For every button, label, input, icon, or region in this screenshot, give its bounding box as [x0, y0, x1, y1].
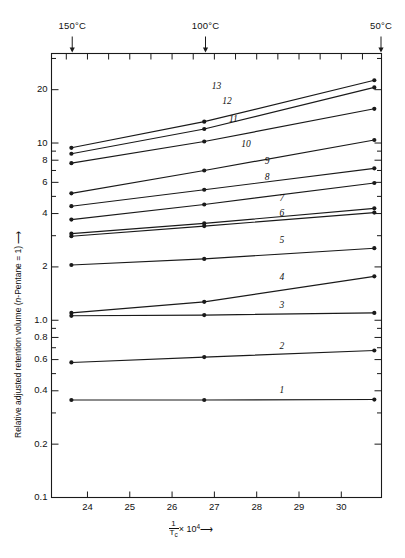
data-point [372, 85, 376, 89]
x-tick-label: 27 [202, 501, 226, 512]
x-tick-label: 28 [245, 501, 269, 512]
curve-label-13: 13 [208, 81, 224, 91]
curve-label-9: 9 [259, 156, 275, 166]
top-annotation-arrowhead [378, 48, 383, 53]
y-tick-label: 6 [18, 176, 48, 187]
data-point [202, 202, 206, 206]
y-tick-label: 10 [18, 137, 48, 148]
chart-svg [0, 0, 405, 558]
series-line-9 [71, 168, 374, 206]
data-point [372, 107, 376, 111]
y-axis-arrow-icon: ⟶ [13, 230, 23, 243]
series-line-3 [71, 313, 374, 316]
x-tick-label: 30 [329, 501, 353, 512]
x-axis-denominator: Tc [169, 529, 179, 538]
series-line-5 [71, 248, 374, 265]
top-annotation-50c: 50°C [361, 20, 401, 31]
curve-label-3: 3 [274, 300, 290, 310]
data-point [202, 127, 206, 131]
x-axis-fraction: 1 Tc [169, 520, 179, 539]
data-point [69, 263, 73, 267]
x-tick-label: 26 [160, 501, 184, 512]
series-line-2 [71, 351, 374, 363]
y-tick-label: 0.8 [18, 331, 48, 342]
data-point [69, 204, 73, 208]
curve-label-8: 8 [259, 172, 275, 182]
data-point [372, 397, 376, 401]
top-annotation-arrowhead [70, 48, 75, 53]
y-tick-label: 4 [18, 207, 48, 218]
data-point [202, 313, 206, 317]
data-point [69, 232, 73, 236]
x-axis-arrow-icon: ⟶ [200, 523, 213, 533]
y-tick-label: 0.2 [18, 438, 48, 449]
data-point [69, 217, 73, 221]
x-axis-title: 1 Tc × 104⟶ [169, 520, 214, 539]
data-point [69, 152, 73, 156]
curve-label-1: 1 [274, 385, 290, 395]
data-point [372, 181, 376, 185]
y-tick-label: 8 [18, 154, 48, 165]
curve-label-4: 4 [274, 272, 290, 282]
data-point [372, 246, 376, 250]
top-annotation-100c: 100°C [186, 20, 226, 31]
y-tick-label: 1.0 [18, 314, 48, 325]
curve-label-10: 10 [238, 139, 254, 149]
x-tick-label: 29 [287, 501, 311, 512]
data-point [202, 398, 206, 402]
y-tick-label: 0.4 [18, 384, 48, 395]
data-point [202, 355, 206, 359]
data-point [202, 188, 206, 192]
data-point [69, 161, 73, 165]
curve-label-12: 12 [219, 96, 235, 106]
data-point [202, 120, 206, 124]
series-line-8 [71, 183, 374, 220]
series-line-4 [71, 276, 374, 313]
curve-label-11: 11 [225, 114, 241, 124]
curve-label-6: 6 [274, 208, 290, 218]
data-point [372, 78, 376, 82]
data-point [372, 211, 376, 215]
x-tick-label: 25 [118, 501, 142, 512]
data-point [372, 311, 376, 315]
data-point [372, 348, 376, 352]
curve-label-7: 7 [274, 193, 290, 203]
curve-label-5: 5 [274, 235, 290, 245]
data-point [372, 206, 376, 210]
y-tick-label: 2 [18, 260, 48, 271]
data-point [69, 146, 73, 150]
y-tick-label: 0.1 [18, 491, 48, 502]
curve-label-2: 2 [274, 341, 290, 351]
x-axis-denominator-subscript: c [174, 531, 177, 538]
data-point [202, 257, 206, 261]
data-point [202, 168, 206, 172]
series-line-10 [71, 140, 374, 193]
data-point [372, 166, 376, 170]
series-line-6 [71, 213, 374, 237]
x-axis-multiplier: × 10 [179, 523, 197, 533]
plot-frame [52, 54, 382, 498]
x-tick-label: 24 [75, 501, 99, 512]
data-point [202, 139, 206, 143]
data-point [202, 221, 206, 225]
top-annotation-150c: 150°C [52, 20, 92, 31]
data-point [69, 311, 73, 315]
top-annotation-arrowhead [203, 48, 208, 53]
series-line-7 [71, 208, 374, 233]
y-tick-label: 20 [18, 83, 48, 94]
chart-figure: 150°C 100°C 50°C Relative adjusted reten… [0, 0, 405, 558]
data-point [69, 360, 73, 364]
data-point [69, 398, 73, 402]
y-tick-label: 0.6 [18, 353, 48, 364]
data-point [202, 300, 206, 304]
data-point [372, 274, 376, 278]
data-point [69, 191, 73, 195]
data-point [372, 138, 376, 142]
